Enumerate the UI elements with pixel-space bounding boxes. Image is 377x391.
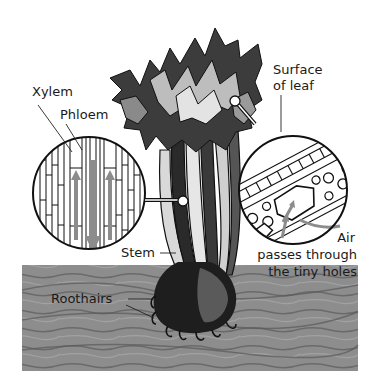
label-phloem: Phloem [60, 107, 108, 122]
label-surface-line2: of leaf [273, 78, 314, 93]
stem-section-inset [33, 130, 145, 260]
label-air-line3: the tiny holes [268, 264, 357, 279]
label-xylem: Xylem [32, 84, 73, 99]
celery-leaves [110, 28, 262, 152]
label-air-line2: passes through [257, 247, 357, 262]
label-stem: Stem [121, 245, 155, 260]
label-surface-line1: Surface [273, 62, 323, 77]
label-air-line1: Air [337, 230, 355, 245]
label-roothairs: Roothairs [51, 291, 112, 306]
plant-diagram: Xylem Phloem Surface of leaf Air passes … [0, 0, 377, 391]
diagram-artwork [0, 0, 377, 391]
